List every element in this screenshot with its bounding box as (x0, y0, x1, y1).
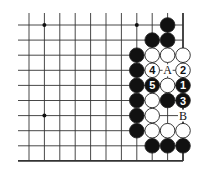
go-board-diagram: 42513 AB (0, 0, 204, 176)
black-stone (130, 123, 145, 138)
point-label-a: A (163, 63, 172, 77)
black-stone (130, 78, 145, 93)
white-stone: 4 (145, 63, 160, 78)
black-stone (160, 33, 175, 48)
black-stone: 1 (176, 78, 191, 93)
black-stone (130, 48, 145, 63)
move-number: 5 (149, 79, 155, 91)
black-stone: 5 (145, 78, 160, 93)
white-stone (145, 123, 160, 138)
star-point (42, 114, 46, 118)
point-label-b: B (179, 109, 187, 123)
move-number: 1 (180, 79, 186, 91)
black-stone (160, 139, 175, 154)
move-number: 3 (180, 95, 186, 107)
white-stone (160, 78, 175, 93)
star-point (42, 23, 46, 27)
white-stone (160, 48, 175, 63)
stones: 42513 (130, 18, 191, 153)
black-stone: 3 (176, 93, 191, 108)
black-stone (160, 18, 175, 33)
star-point (135, 23, 139, 27)
white-stone (145, 48, 160, 63)
white-stone (145, 93, 160, 108)
white-stone (176, 123, 191, 138)
move-number: 2 (180, 64, 186, 76)
white-stone (160, 123, 175, 138)
black-stone (145, 33, 160, 48)
white-stone: 2 (176, 63, 191, 78)
black-stone (176, 139, 191, 154)
black-stone (130, 63, 145, 78)
white-stone (145, 108, 160, 123)
white-stone (176, 48, 191, 63)
black-stone (130, 108, 145, 123)
black-stone (160, 93, 175, 108)
black-stone (130, 93, 145, 108)
black-stone (145, 139, 160, 154)
move-number: 4 (149, 64, 156, 76)
